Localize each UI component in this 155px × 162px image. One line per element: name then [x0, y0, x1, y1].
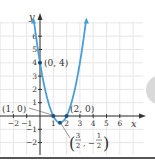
vertex-label-paren-open: ( — [69, 134, 75, 153]
y-tick-label: 1 — [32, 98, 37, 107]
x-tick-label: 3 — [78, 119, 83, 128]
vertex-label-den1: 2 — [76, 142, 80, 150]
y-tick-label: 4 — [32, 58, 37, 67]
y-axis-arrow-icon — [38, 13, 43, 20]
x-axis-label: x — [131, 118, 137, 129]
x-tick-label: −2 — [8, 119, 19, 128]
data-point — [65, 114, 69, 118]
vertex-label-paren-close: ) — [103, 134, 109, 153]
y-tick-label: −1 — [26, 125, 37, 134]
bottom-divider — [0, 157, 155, 159]
parabola-chart: xy−2−1123456−2−1123456(0, 4)(1, 0)(2, 0)… — [0, 0, 155, 162]
x-tick-label: 6 — [117, 119, 122, 128]
label-point-1-0: (1, 0) — [2, 104, 26, 114]
y-tick-label: 3 — [32, 72, 37, 81]
y-tick-label: 2 — [32, 85, 37, 94]
y-tick-label: 5 — [32, 45, 37, 54]
y-tick-label: −2 — [26, 138, 37, 147]
label-point-0-4: (0, 4) — [44, 58, 68, 68]
curve-arrow-right-icon — [84, 18, 89, 24]
data-point — [38, 61, 42, 65]
vertex-label-num1: 3 — [76, 132, 80, 140]
label-point-2-0: (2, 0) — [70, 104, 94, 114]
x-tick-label: 4 — [91, 119, 96, 128]
x-tick-label: 5 — [104, 119, 109, 128]
x-axis-arrow-icon — [139, 114, 146, 119]
vertex-label-num2: 1 — [97, 132, 101, 140]
vertex-label-den2: 2 — [97, 142, 101, 150]
leader-line-1-0 — [29, 108, 52, 115]
vertex-label-comma: , − — [83, 139, 95, 148]
